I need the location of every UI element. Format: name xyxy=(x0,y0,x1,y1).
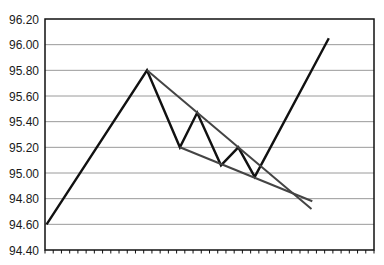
y-tick-label: 95.00 xyxy=(9,167,39,181)
y-tick-label: 94.60 xyxy=(9,218,39,232)
y-tick-label: 96.20 xyxy=(9,13,39,27)
y-tick-label: 94.80 xyxy=(9,192,39,206)
y-tick-label: 95.20 xyxy=(9,141,39,155)
plot-border xyxy=(45,19,374,250)
falling-wedge-chart: 94.4094.6094.8095.0095.2095.4095.6095.80… xyxy=(0,0,384,265)
lower-trendline xyxy=(180,147,312,201)
y-axis-tick-labels: 94.4094.6094.8095.0095.2095.4095.6095.80… xyxy=(9,13,39,258)
price-line xyxy=(47,38,329,224)
plot-frame xyxy=(45,19,374,250)
y-tick-label: 95.40 xyxy=(9,115,39,129)
data-series xyxy=(47,38,329,224)
upper-trendline xyxy=(147,70,312,209)
horizontal-gridlines xyxy=(45,45,374,225)
y-tick-label: 94.40 xyxy=(9,244,39,258)
y-tick-label: 95.60 xyxy=(9,90,39,104)
y-tick-label: 96.00 xyxy=(9,38,39,52)
y-tick-label: 95.80 xyxy=(9,64,39,78)
x-axis-tick-marks xyxy=(45,250,374,254)
